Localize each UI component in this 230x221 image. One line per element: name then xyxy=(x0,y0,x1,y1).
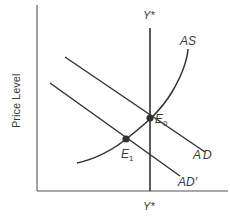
e1-point xyxy=(122,135,129,142)
ad-as-diagram: Price Level Y* Y* AD AD′ AS E0 E1 xyxy=(0,0,230,221)
as-curve xyxy=(77,49,188,163)
potential-output-label-bottom: Y* xyxy=(143,200,155,212)
potential-output-label-top: Y* xyxy=(143,9,155,21)
axes xyxy=(37,5,228,191)
ad-prime-curve xyxy=(50,83,180,176)
e1-label: E1 xyxy=(121,147,134,163)
ad-label: AD xyxy=(192,148,214,162)
y-axis-title: Price Level xyxy=(10,74,22,128)
ad-prime-label: AD′ xyxy=(177,175,198,189)
as-label: AS xyxy=(179,34,196,48)
ad-curve xyxy=(65,57,205,152)
e0-label: E0 xyxy=(155,112,168,128)
e0-point xyxy=(146,114,153,121)
